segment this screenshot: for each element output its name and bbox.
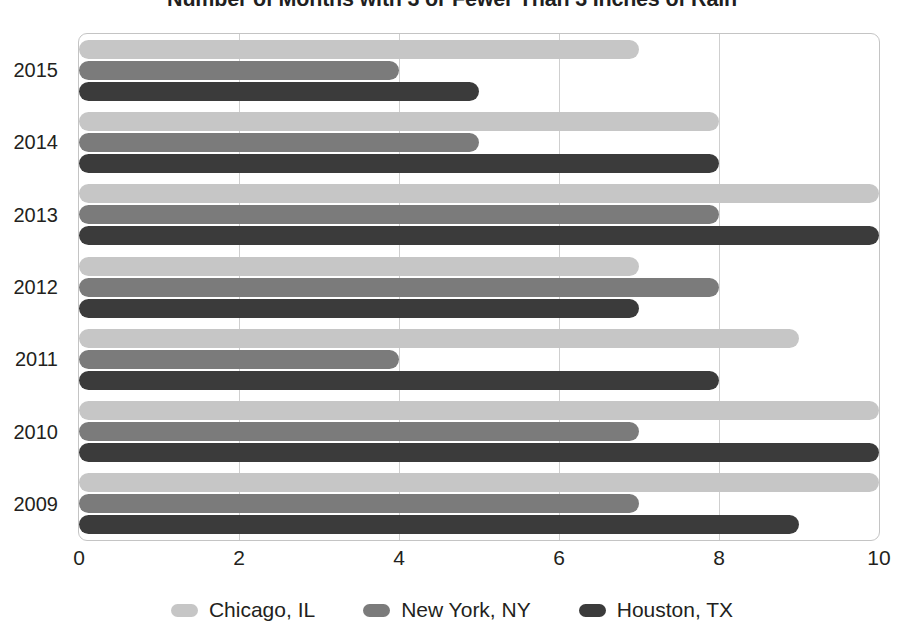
chart-title: Number of Months with 3 or Fewer Than 3 …	[0, 0, 904, 12]
bar-2011-chicago-il	[79, 329, 799, 348]
x-tick-label-8: 8	[713, 546, 725, 570]
legend-item-chicago-il[interactable]: Chicago, IL	[171, 598, 315, 622]
legend-swatch-icon	[171, 604, 198, 617]
y-tick-label-2010: 2010	[14, 420, 59, 443]
legend-item-new-york-ny[interactable]: New York, NY	[363, 598, 531, 622]
y-tick-label-2009: 2009	[14, 492, 59, 515]
bar-2010-new-york-ny	[79, 422, 639, 441]
bar-2009-houston-tx	[79, 515, 799, 534]
bar-2014-chicago-il	[79, 112, 719, 131]
bar-2013-chicago-il	[79, 184, 879, 203]
x-tick-label-6: 6	[553, 546, 565, 570]
x-tick-label-4: 4	[393, 546, 405, 570]
bar-2014-new-york-ny	[79, 133, 479, 152]
bar-2010-chicago-il	[79, 401, 879, 420]
legend-label: Houston, TX	[617, 598, 733, 622]
bar-2014-houston-tx	[79, 154, 719, 173]
y-axis: 2015201420132012201120102009	[0, 33, 68, 541]
y-tick-label-2014: 2014	[14, 131, 59, 154]
y-tick-label-2011: 2011	[15, 348, 58, 371]
chart-page: Number of Months with 3 or Fewer Than 3 …	[0, 0, 904, 638]
chart-legend: Chicago, ILNew York, NYHouston, TX	[0, 598, 904, 622]
bar-2010-houston-tx	[79, 443, 879, 462]
bar-2012-new-york-ny	[79, 278, 719, 297]
bar-2015-new-york-ny	[79, 61, 399, 80]
bar-2012-houston-tx	[79, 299, 639, 318]
bar-2011-houston-tx	[79, 371, 719, 390]
x-axis: 0246810	[78, 546, 880, 580]
y-tick-label-2015: 2015	[14, 59, 59, 82]
bar-2009-chicago-il	[79, 473, 879, 492]
bars-layer	[79, 34, 879, 540]
bar-2012-chicago-il	[79, 257, 639, 276]
bar-2013-new-york-ny	[79, 205, 719, 224]
x-tick-label-10: 10	[867, 546, 890, 570]
y-tick-label-2013: 2013	[14, 203, 59, 226]
bar-2013-houston-tx	[79, 226, 879, 245]
legend-label: Chicago, IL	[209, 598, 315, 622]
legend-swatch-icon	[579, 604, 606, 617]
legend-item-houston-tx[interactable]: Houston, TX	[579, 598, 733, 622]
y-tick-label-2012: 2012	[14, 276, 59, 299]
legend-swatch-icon	[363, 604, 390, 617]
bar-2011-new-york-ny	[79, 350, 399, 369]
bar-2009-new-york-ny	[79, 494, 639, 513]
bar-2015-chicago-il	[79, 40, 639, 59]
x-tick-label-0: 0	[73, 546, 85, 570]
bar-2015-houston-tx	[79, 82, 479, 101]
x-tick-label-2: 2	[233, 546, 245, 570]
legend-label: New York, NY	[401, 598, 531, 622]
